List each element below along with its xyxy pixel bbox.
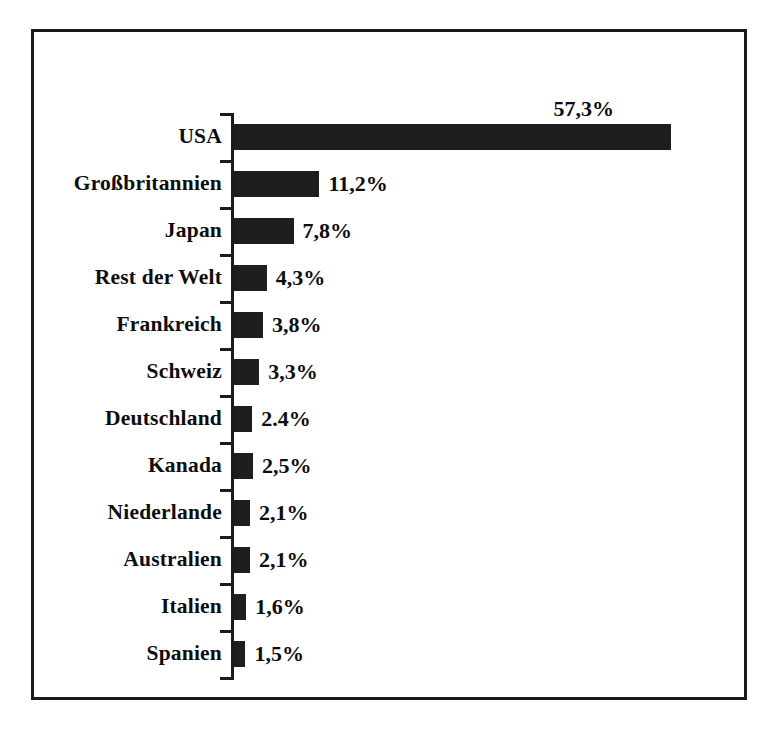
bar-row: Italien1,6% xyxy=(34,583,744,630)
bar xyxy=(234,171,319,197)
bar-value-label: 3,8% xyxy=(272,314,322,336)
axis-tick xyxy=(220,395,232,398)
bar-with-label: 4,3% xyxy=(234,265,325,291)
bar-row: Niederlande2,1% xyxy=(34,489,744,536)
category-label: Deutschland xyxy=(34,408,222,430)
axis-tick xyxy=(220,536,232,539)
bar-row: Australien2,1% xyxy=(34,536,744,583)
category-label: Australien xyxy=(34,549,222,571)
axis-tick xyxy=(220,442,232,445)
category-label: Großbritannien xyxy=(34,173,222,195)
category-label: Rest der Welt xyxy=(34,267,222,289)
bar-value-label: 4,3% xyxy=(276,267,326,289)
bar xyxy=(234,359,259,385)
bar-row: Japan7,8% xyxy=(34,207,744,254)
bar-with-label: 1,5% xyxy=(234,641,304,667)
chart-frame: USA57,3%Großbritannien11,2%Japan7,8%Rest… xyxy=(31,29,747,700)
category-label: Schweiz xyxy=(34,361,222,383)
axis-tick xyxy=(220,113,232,116)
axis-tick xyxy=(220,160,232,163)
bar-value-label: 2,1% xyxy=(259,502,309,524)
bar-value-label: 2.4% xyxy=(261,408,311,430)
axis-tick xyxy=(220,583,232,586)
axis-tick xyxy=(220,301,232,304)
bar xyxy=(234,124,671,150)
bar-value-label: 11,2% xyxy=(328,173,387,195)
bar xyxy=(234,547,250,573)
bar-row: Schweiz3,3% xyxy=(34,348,744,395)
bar-row: USA57,3% xyxy=(34,113,744,160)
bar-with-label: 11,2% xyxy=(234,171,388,197)
bar-row: Deutschland2.4% xyxy=(34,395,744,442)
category-label: USA xyxy=(34,126,222,148)
plot-area: USA57,3%Großbritannien11,2%Japan7,8%Rest… xyxy=(34,32,744,697)
bar xyxy=(234,218,294,244)
category-label: Spanien xyxy=(34,643,222,665)
axis-tick xyxy=(220,254,232,257)
bar xyxy=(234,406,252,432)
axis-tick xyxy=(220,489,232,492)
bar-row: Rest der Welt4,3% xyxy=(34,254,744,301)
bar-value-label: 7,8% xyxy=(303,220,353,242)
bar-value-label: 3,3% xyxy=(268,361,318,383)
bar xyxy=(234,265,267,291)
bar-row: Spanien1,5% xyxy=(34,630,744,677)
bar xyxy=(234,594,246,620)
bar-row: Frankreich3,8% xyxy=(34,301,744,348)
axis-tick xyxy=(220,207,232,210)
bar-value-label: 1,5% xyxy=(254,643,304,665)
bar xyxy=(234,500,250,526)
axis-tick-end xyxy=(220,677,232,680)
bar-with-label: 7,8% xyxy=(234,218,352,244)
bar xyxy=(234,312,263,338)
bar-with-label: 2,1% xyxy=(234,500,309,526)
bar-with-label: 2,5% xyxy=(234,453,312,479)
category-label: Frankreich xyxy=(34,314,222,336)
bar-value-label: 1,6% xyxy=(255,596,305,618)
category-label: Niederlande xyxy=(34,502,222,524)
category-label: Kanada xyxy=(34,455,222,477)
bar-with-label: 2.4% xyxy=(234,406,311,432)
bar-row: Kanada2,5% xyxy=(34,442,744,489)
bar-with-label: 2,1% xyxy=(234,547,309,573)
bar-with-label: 1,6% xyxy=(234,594,305,620)
category-label: Japan xyxy=(34,220,222,242)
bar-value-label: 57,3% xyxy=(554,98,615,120)
bar-with-label: 3,3% xyxy=(234,359,318,385)
bar-value-label: 2,5% xyxy=(262,455,312,477)
axis-tick xyxy=(220,348,232,351)
bar-value-label: 2,1% xyxy=(259,549,309,571)
bar-with-label: 3,8% xyxy=(234,312,321,338)
bar xyxy=(234,641,245,667)
bar-with-label: 57,3% xyxy=(234,124,671,150)
bar-row: Großbritannien11,2% xyxy=(34,160,744,207)
axis-tick xyxy=(220,630,232,633)
bar xyxy=(234,453,253,479)
category-label: Italien xyxy=(34,596,222,618)
